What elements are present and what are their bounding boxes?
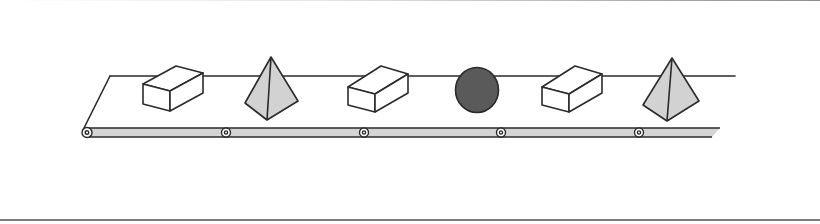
belt-left-edge [83, 76, 110, 130]
pyramid-icon [245, 57, 298, 120]
roller-icon [360, 128, 369, 137]
bottom-page-rule [0, 219, 820, 221]
conveyor-belt-diagram [0, 0, 820, 224]
sphere-icon [456, 68, 499, 113]
belt-side-band [87, 128, 720, 137]
box-icon [143, 66, 203, 111]
roller-icon [222, 128, 231, 137]
box-icon [542, 66, 602, 112]
roller-icon [497, 128, 506, 137]
pyramid-icon [643, 58, 699, 121]
roller-icon [82, 128, 92, 138]
box-icon [348, 66, 408, 112]
roller-icon [635, 128, 644, 137]
